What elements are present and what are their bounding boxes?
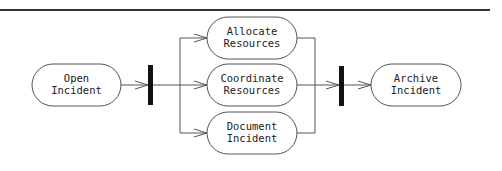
activity-diagram: Open Incident Allocate Resources Coordin…	[0, 0, 502, 171]
edges-actions-to-join	[297, 38, 339, 133]
node-coordinate-resources[interactable]: Coordinate Resources	[207, 64, 297, 106]
edge-join-to-archive	[344, 81, 371, 89]
node-document-incident-line2: Incident	[227, 132, 278, 144]
fork-bar[interactable]	[148, 65, 153, 105]
node-coordinate-resources-line1: Coordinate	[220, 72, 283, 84]
node-open-incident[interactable]: Open Incident	[32, 64, 121, 106]
node-archive-incident[interactable]: Archive Incident	[371, 64, 461, 106]
edge-open-to-fork	[121, 81, 148, 89]
node-open-incident-line2: Incident	[51, 84, 102, 96]
node-archive-incident-line2: Incident	[391, 84, 442, 96]
node-document-incident[interactable]: Document Incident	[207, 112, 297, 154]
edges-fork-to-actions	[153, 34, 207, 137]
node-allocate-resources-line2: Resources	[224, 37, 281, 49]
node-document-incident-line1: Document	[227, 120, 278, 132]
node-open-incident-line1: Open	[64, 72, 89, 84]
join-bar[interactable]	[339, 66, 344, 106]
node-allocate-resources-line1: Allocate	[227, 25, 278, 37]
node-coordinate-resources-line2: Resources	[224, 84, 281, 96]
node-allocate-resources[interactable]: Allocate Resources	[207, 17, 297, 59]
node-archive-incident-line1: Archive	[394, 72, 438, 84]
